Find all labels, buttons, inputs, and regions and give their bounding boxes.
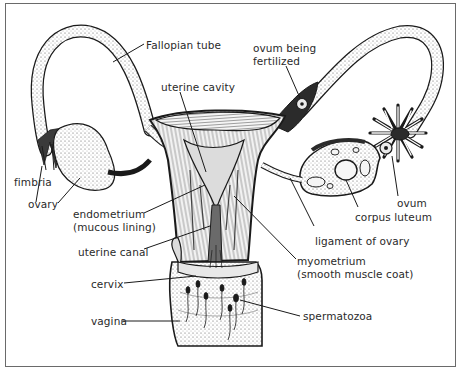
label-fimbria: fimbria	[14, 176, 52, 189]
leader-ovum-being-fertilized	[286, 66, 300, 98]
leader-ovary	[58, 178, 80, 203]
uterus	[150, 110, 285, 262]
label-endometrium-line2: (mucous lining)	[73, 221, 156, 234]
label-endometrium-line1: endometrium	[73, 208, 145, 221]
label-uterine-cavity: uterine cavity	[161, 81, 235, 94]
released-ovum	[380, 142, 392, 154]
label-ovum: ovum	[397, 197, 427, 210]
label-cervix: cervix	[91, 278, 124, 291]
label-ovum-being-fertilized-line1: ovum being	[253, 42, 316, 55]
label-myometrium-line2: (smooth muscle coat)	[297, 268, 413, 281]
label-ovary: ovary	[28, 198, 58, 211]
right-ovary	[262, 140, 380, 196]
label-corpus-luteum: corpus luteum	[355, 211, 432, 224]
label-spermatozoa: spermatozoa	[303, 310, 372, 323]
label-fallopian-tube: Fallopian tube	[146, 39, 221, 52]
label-ovum-being-fertilized-line2: fertilized	[253, 55, 300, 68]
corpus-luteum	[335, 160, 357, 180]
reproductive-anatomy-illustration	[0, 0, 462, 378]
label-vagina: vagina	[91, 315, 127, 328]
label-myometrium-line1: myometrium	[297, 255, 366, 268]
label-ligament-of-ovary: ligament of ovary	[315, 235, 410, 248]
label-uterine-canal: uterine canal	[78, 246, 148, 259]
left-ovary	[53, 124, 150, 191]
